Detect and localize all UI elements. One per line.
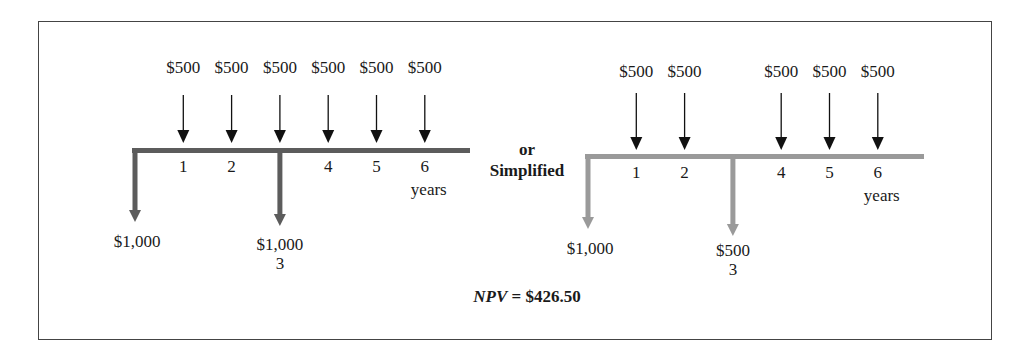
left-outflow-label: $1,000	[257, 236, 304, 254]
right-timeline-bar	[585, 154, 924, 159]
right-inflow-arrowhead	[775, 137, 787, 150]
left-inflow-label: $500	[311, 59, 345, 77]
left-units-label: years	[411, 181, 447, 199]
right-outflow-label: $1,000	[567, 240, 614, 258]
left-inflow-label: $500	[408, 59, 442, 77]
left-inflow-arrowhead	[226, 130, 238, 143]
right-inflow-label: $500	[861, 63, 895, 81]
right-outflow-shaft	[586, 155, 591, 219]
left-outflow-arrowhead	[274, 214, 286, 226]
left-period-label: 2	[227, 158, 236, 176]
left-outflow-shaft	[133, 149, 138, 212]
left-inflow-label: $500	[360, 59, 394, 77]
simplified-label: Simplified	[490, 162, 565, 180]
left-inflow-arrowhead	[371, 130, 383, 143]
right-inflow-arrowhead	[824, 137, 836, 150]
left-timeline-bar	[132, 148, 470, 153]
left-inflow-arrowhead	[419, 130, 431, 143]
left-inflow-label: $500	[263, 59, 297, 77]
right-period-label: 6	[874, 164, 883, 182]
right-inflow-label: $500	[764, 63, 798, 81]
left-outflow-label: $1,000	[114, 233, 161, 251]
left-period-label: 5	[372, 158, 381, 176]
right-outflow-label: $500	[716, 242, 750, 260]
right-units-label: years	[864, 187, 900, 205]
left-inflow-label: $500	[215, 59, 249, 77]
right-inflow-label: $500	[668, 63, 702, 81]
right-period-label: 4	[777, 164, 786, 182]
right-period-label: 1	[632, 164, 641, 182]
left-outflow-arrowhead	[129, 210, 141, 222]
npv-result: NPV = $426.50	[473, 288, 580, 306]
left-period-label: 6	[421, 158, 430, 176]
left-inflow-label: $500	[166, 59, 200, 77]
left-inflow-arrowhead	[274, 130, 286, 143]
right-inflow-arrowhead	[630, 137, 642, 150]
left-inflow-arrowhead	[322, 130, 334, 143]
right-inflow-label: $500	[813, 63, 847, 81]
right-outflow-shaft	[730, 155, 735, 226]
left-period-label: 4	[324, 158, 333, 176]
npv-value: = $426.50	[507, 287, 580, 306]
right-inflow-arrowhead	[872, 137, 884, 150]
right-period-label: 5	[825, 164, 834, 182]
right-outflow-arrowhead	[727, 224, 739, 236]
or-label: or	[519, 141, 535, 159]
right-period-label: 2	[680, 164, 689, 182]
left-inflow-arrowhead	[177, 130, 189, 143]
right-inflow-arrowhead	[679, 137, 691, 150]
left-outflow-period-label: 3	[276, 255, 285, 273]
right-outflow-period-label: 3	[729, 261, 738, 279]
right-outflow-arrowhead	[582, 217, 594, 229]
npv-symbol: NPV	[473, 287, 507, 306]
right-inflow-label: $500	[619, 63, 653, 81]
left-period-label: 1	[179, 158, 188, 176]
left-outflow-shaft	[277, 149, 282, 216]
